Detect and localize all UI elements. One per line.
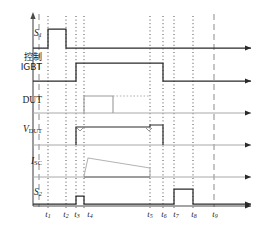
time-tick-t2: t2: [63, 209, 68, 219]
signal-label-s2: S2: [0, 188, 42, 198]
time-tick-t6: t6: [161, 209, 166, 219]
time-tick-t4: t4: [87, 209, 92, 219]
signal-label-control-igbt: 控制 IGBT: [0, 52, 42, 73]
signal-label-isc: ISC: [0, 157, 42, 167]
time-marker-lines: [48, 14, 214, 208]
signal-label-vdut-sub: DUT: [29, 127, 42, 134]
waveform-s1: [33, 29, 251, 48]
signal-label-s1-sub: 1: [39, 31, 42, 38]
signal-label-vdut: VDUT: [0, 125, 42, 135]
signal-label-s1: S1: [0, 29, 42, 39]
signal-label-dut: DUT: [0, 96, 42, 106]
time-tick-t7: t7: [173, 209, 178, 219]
time-tick-t1: t1: [45, 209, 50, 219]
time-tick-t9: t9: [212, 209, 217, 219]
timing-diagram-figure: S1 控制 IGBT DUT VDUT ISC S2 t1 t2 t3 t4 t…: [0, 0, 267, 226]
time-tick-t5: t5: [147, 209, 152, 219]
time-tick-t3: t3: [74, 209, 79, 219]
time-tick-t8: t8: [191, 209, 196, 219]
signal-label-control-igbt-line2: IGBT: [0, 62, 42, 72]
signal-label-control-igbt-line1: 控制: [0, 52, 42, 62]
waveform-control-igbt: [33, 63, 251, 81]
signal-label-dut-main: DUT: [22, 95, 42, 105]
signal-label-isc-sub: SC: [34, 159, 42, 166]
signal-label-s2-sub: 2: [39, 190, 42, 197]
